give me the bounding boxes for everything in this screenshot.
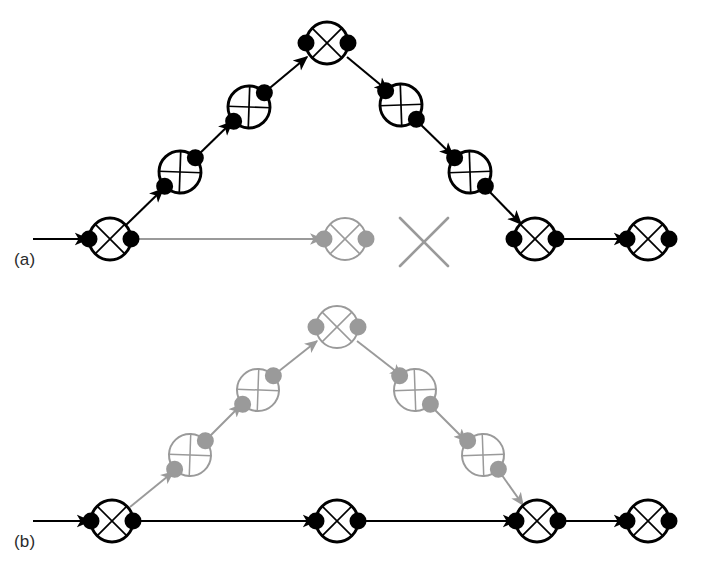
node-port-left[interactable] [308,319,325,336]
panel-b [33,306,678,542]
node-port-right[interactable] [261,364,285,388]
node-port-right[interactable] [550,513,567,530]
a-edge-up-1 [126,189,163,225]
b-edge-up-1 [130,472,173,507]
node-port-left[interactable] [308,513,325,530]
a-node-join[interactable] [506,218,565,260]
node-port-right[interactable] [486,457,510,481]
node-port-right[interactable] [661,231,678,248]
node-port-left[interactable] [81,231,98,248]
figure-canvas: (a) (b) [0,0,708,578]
node-port-left[interactable] [298,35,315,52]
a-edge-down-3 [486,188,521,224]
panel-a [33,22,678,266]
a-edge-down-2 [417,121,453,156]
panel-a-label: (a) [14,250,35,270]
b-node-end[interactable] [619,500,678,542]
node-port-right[interactable] [123,231,140,248]
node-port-right[interactable] [661,513,678,530]
node-port-left[interactable] [83,513,100,530]
a-node-end[interactable] [619,218,678,260]
b-node-start[interactable] [83,500,142,542]
node-port-left[interactable] [619,231,636,248]
b-node-down-2[interactable] [447,420,519,491]
a-edge-up-3 [265,57,307,92]
node-port-right[interactable] [548,231,565,248]
a-node-up-2[interactable] [213,72,285,143]
a-node-start[interactable] [81,218,140,260]
node-port-right[interactable] [350,319,367,336]
node-port-left[interactable] [506,231,523,248]
node-port-left[interactable] [619,513,636,530]
node-port-right[interactable] [340,35,357,52]
node-port-right[interactable] [358,231,375,248]
b-node-up-2[interactable] [222,355,294,426]
a-cross-blocked [400,218,448,266]
panel-b-label: (b) [14,532,35,552]
node-port-right[interactable] [350,513,367,530]
diagram-svg [0,0,708,578]
node-port-left[interactable] [456,429,480,453]
b-edge-up-3 [274,341,317,375]
a-node-ghost[interactable] [316,218,375,260]
b-node-mid-2[interactable] [508,500,567,542]
b-node-mid-1[interactable] [308,500,367,542]
node-port-left[interactable] [316,231,333,248]
node-port-right[interactable] [125,513,142,530]
node-port-left[interactable] [508,513,525,530]
